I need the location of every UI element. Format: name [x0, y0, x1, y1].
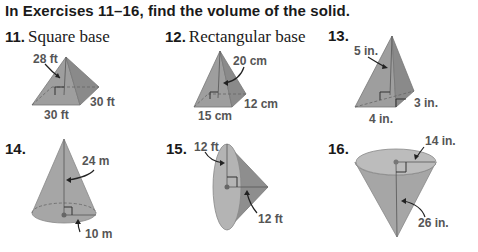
cone-figure: 24 m 10 m: [0, 125, 160, 252]
slant-height-label: 5 in.: [354, 44, 378, 58]
exercise-caption: Rectangular base: [189, 27, 306, 46]
tall-pyramid-figure: 5 in. 3 in. 4 in.: [318, 35, 478, 125]
inverted-cone-figure: 14 in. 26 in.: [318, 125, 478, 252]
height-label: 12 ft: [258, 212, 283, 226]
square-pyramid-figure: 28 ft 30 ft 30 ft: [0, 50, 160, 130]
radius-label: 10 m: [85, 227, 112, 241]
rectangular-pyramid-figure: 20 cm 12 cm 15 cm: [160, 50, 320, 130]
exercise-11-title: 11.Square base: [5, 27, 110, 47]
base-width-label: 12 cm: [244, 97, 278, 111]
exercise-12-title: 12.Rectangular base: [165, 27, 305, 47]
slant-height-label: 28 ft: [33, 52, 58, 66]
base-length-label: 30 ft: [44, 108, 69, 122]
sideways-cone-figure: 12 ft 12 ft: [160, 125, 320, 252]
radius-label: 12 ft: [194, 140, 219, 154]
base-width-label: 3 in.: [414, 96, 438, 110]
exercise-number: 11.: [5, 28, 25, 45]
exercise-number: 12.: [165, 28, 186, 45]
height-label: 26 in.: [418, 216, 449, 230]
base-length-label: 15 cm: [198, 109, 232, 123]
exercise-heading: In Exercises 11–16, find the volume of t…: [5, 2, 350, 19]
height-label: 24 m: [82, 154, 109, 168]
base-length-label: 4 in.: [369, 112, 393, 126]
radius-label: 14 in.: [425, 134, 456, 148]
exercise-caption: Square base: [28, 27, 110, 46]
base-width-label: 30 ft: [90, 95, 115, 109]
slant-height-label: 20 cm: [233, 54, 267, 68]
